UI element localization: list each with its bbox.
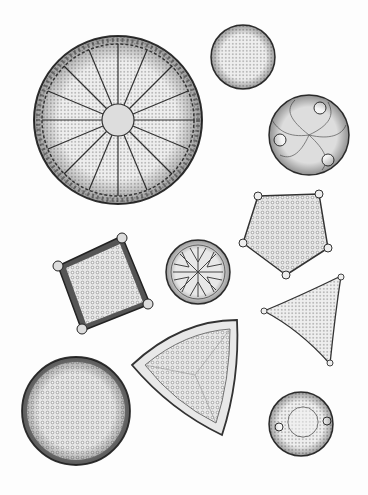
diatom-plate — [0, 0, 368, 495]
three-ocelli-disc — [269, 95, 349, 175]
large-disc — [22, 357, 130, 465]
small-dotted-disc — [211, 25, 275, 89]
rosette-disc — [166, 240, 230, 304]
pentagon — [239, 190, 332, 279]
radial-disc — [34, 36, 202, 204]
square — [53, 233, 153, 334]
large-triangle — [132, 320, 237, 435]
small-triangle — [261, 274, 344, 366]
ring-disc — [269, 392, 333, 456]
